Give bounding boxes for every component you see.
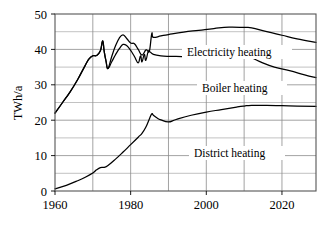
chart-figure: 010203040501960198020002020TWh/a Electri… — [0, 0, 328, 226]
y-axis-tick-label: 30 — [35, 78, 48, 92]
y-axis-tick-label: 40 — [35, 43, 48, 57]
line-chart: 010203040501960198020002020TWh/a Electri… — [0, 0, 328, 226]
y-axis-title: TWh/a — [11, 85, 25, 120]
annotation-district-heating: District heating — [189, 146, 285, 160]
annotation-district-label: District heating — [194, 147, 265, 160]
annotation-electricity-heating: Electricity heating — [182, 45, 292, 59]
x-axis-tick-label: 2020 — [269, 198, 294, 212]
annotation-electricity-label: Electricity heating — [187, 46, 272, 59]
annotation-boiler-heating: Boiler heating — [197, 81, 287, 95]
x-axis-tick-label: 1980 — [118, 198, 143, 212]
x-axis-tick-label: 1960 — [43, 198, 68, 212]
x-axis-tick-label: 2000 — [194, 198, 219, 212]
y-axis-tick-label: 20 — [35, 114, 48, 128]
annotation-boiler-label: Boiler heating — [202, 82, 268, 95]
y-axis-tick-label: 10 — [35, 149, 48, 163]
y-axis-tick-label: 50 — [35, 8, 48, 22]
y-axis-tick-label: 0 — [41, 185, 47, 199]
